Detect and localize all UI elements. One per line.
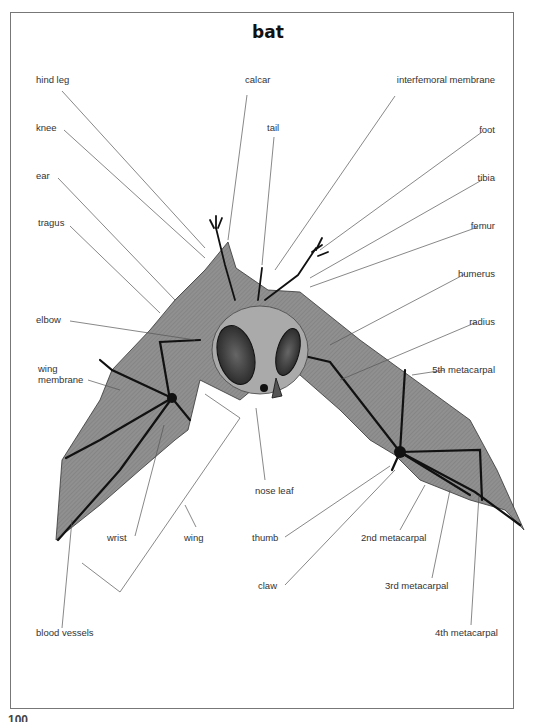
- label-nose-leaf: nose leaf: [255, 485, 294, 496]
- leader-calcar: [228, 95, 247, 240]
- label-elbow: elbow: [36, 314, 61, 325]
- label-tragus: tragus: [38, 217, 64, 228]
- label-calcar: calcar: [245, 74, 270, 85]
- leader-blood-vessels: [62, 520, 72, 628]
- label-blood-vessels: blood vessels: [36, 627, 94, 638]
- label-4th-metacarpal: 4th metacarpal: [435, 627, 498, 638]
- leader-hind-leg: [62, 91, 205, 248]
- label-wrist: wrist: [107, 532, 127, 543]
- leader-tragus: [70, 226, 160, 313]
- label-wing-membrane-line1: wing: [38, 363, 58, 374]
- leader-4th-metacarpal: [471, 495, 479, 625]
- leader-3rd-metacarpal: [432, 490, 450, 578]
- label-ear: ear: [36, 170, 50, 181]
- label-thumb: thumb: [252, 532, 278, 543]
- leader-foot: [320, 132, 482, 250]
- right-wrist-joint: [394, 446, 406, 458]
- label-5th-metacarpal: 5th metacarpal: [432, 364, 495, 375]
- label-tibia: tibia: [478, 172, 495, 183]
- label-foot: foot: [479, 124, 495, 135]
- leader-humerus: [330, 274, 465, 345]
- label-2nd-metacarpal: 2nd metacarpal: [361, 532, 426, 543]
- leader-thumb: [285, 466, 390, 537]
- label-humerus: humerus: [458, 268, 495, 279]
- page-number: 100: [8, 714, 28, 722]
- label-radius: radius: [469, 316, 495, 327]
- leader-knee: [64, 130, 205, 258]
- left-wrist-joint: [167, 393, 177, 403]
- bat-illustration: [0, 0, 536, 722]
- leader-tail: [262, 137, 274, 265]
- leader-femur: [310, 227, 478, 287]
- leader-nose-leaf: [256, 408, 265, 480]
- label-knee: knee: [36, 122, 57, 133]
- label-interfemoral-membrane: interfemoral membrane: [397, 74, 495, 85]
- label-tail: tail: [267, 122, 279, 133]
- label-hind-leg: hind leg: [36, 74, 69, 85]
- label-femur: femur: [471, 220, 495, 231]
- label-claw: claw: [258, 580, 277, 591]
- leader-interfemoral-membrane: [275, 96, 395, 270]
- leader-2nd-metacarpal: [400, 485, 425, 530]
- bat-eye: [260, 384, 268, 392]
- label-wing-membrane-line2: membrane: [38, 374, 83, 385]
- leader-wing: [185, 505, 196, 527]
- label-3rd-metacarpal: 3rd metacarpal: [385, 580, 448, 591]
- label-wing: wing: [184, 532, 204, 543]
- leader-claw: [285, 470, 395, 585]
